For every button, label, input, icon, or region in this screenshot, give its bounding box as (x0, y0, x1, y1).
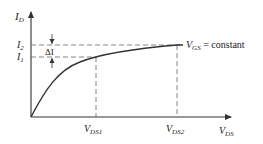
delta-i-label: ΔI (45, 47, 54, 57)
id-vds-diagram: ID I2 I1 ΔI VGS = constant VDS1 VDS2 VDS (0, 0, 263, 144)
vgs-constant-label: VGS = constant (186, 39, 245, 52)
x-axis-label: VDS (219, 125, 234, 138)
vds2-label: VDS2 (166, 123, 185, 136)
characteristic-curve (31, 45, 183, 117)
y-axis-label: ID (14, 10, 24, 24)
i1-label: I1 (16, 51, 24, 64)
vds1-label: VDS1 (84, 123, 102, 136)
